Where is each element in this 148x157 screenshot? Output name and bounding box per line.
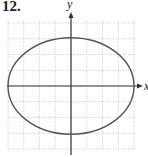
x-axis-arrow-icon bbox=[137, 84, 143, 89]
x-axis bbox=[7, 84, 143, 89]
y-axis-arrow-icon bbox=[69, 12, 74, 18]
grid bbox=[8, 21, 136, 149]
ellipse-plot bbox=[0, 0, 148, 157]
